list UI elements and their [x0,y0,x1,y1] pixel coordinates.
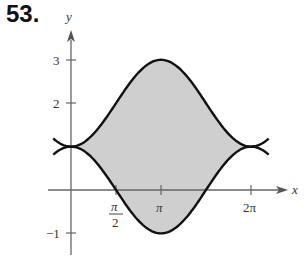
x-tick-label-2pi: 2π [243,200,257,215]
y-axis-label: y [64,9,72,24]
x-tick-label-pi-half-den: 2 [112,215,119,230]
y-tick-label-3: 3 [53,53,60,68]
x-tick-label-pi: π [156,200,163,215]
y-tick-label-neg1: −1 [46,226,60,241]
y-tick-label-2: 2 [53,96,60,111]
graph: y x 3 2 −1 π 2 π 2π [0,0,304,264]
x-axis-label: x [291,182,298,197]
x-tick-label-pi-half-num: π [111,199,118,214]
